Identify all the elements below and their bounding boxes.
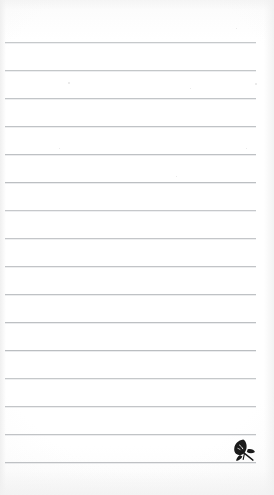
scan-speck: [59, 148, 60, 149]
paper-edge-left: [0, 0, 6, 495]
rule-line: [5, 98, 256, 99]
scan-speck: [236, 28, 237, 29]
paper-texture: [0, 0, 274, 495]
rule-line: [5, 154, 256, 155]
rule-line: [5, 238, 256, 239]
rule-line: [5, 434, 256, 435]
scan-speck: [190, 88, 191, 89]
rule-line: [5, 266, 256, 267]
rule-line: [5, 70, 256, 71]
rule-line: [5, 322, 256, 323]
rule-line: [5, 126, 256, 127]
paper-edge-right: [264, 0, 274, 495]
paper-edge-top: [0, 0, 274, 10]
scan-speck: [68, 82, 70, 84]
rule-line: [5, 42, 256, 43]
rule-line: [5, 210, 256, 211]
rule-line: [5, 350, 256, 351]
scan-speck: [255, 83, 257, 85]
rule-line: [5, 294, 256, 295]
rule-line: [5, 462, 256, 463]
scan-speck: [176, 176, 177, 177]
scan-speck: [246, 148, 247, 149]
rule-line: [5, 406, 256, 407]
rule-line: [5, 378, 256, 379]
notepad-page: [0, 0, 274, 495]
leaf-logo: [231, 437, 257, 463]
paper-edge-bottom: [0, 471, 274, 495]
rule-line: [5, 182, 256, 183]
